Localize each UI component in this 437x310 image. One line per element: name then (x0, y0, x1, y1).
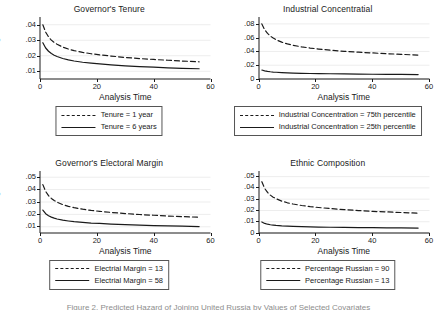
y-tick-mark (37, 56, 40, 57)
y-tick-mark (256, 210, 259, 211)
y-tick-mark (37, 25, 40, 26)
plot-canvas (259, 17, 430, 79)
y-tick-label: .08 (244, 20, 254, 28)
y-tick-mark (37, 226, 40, 227)
y-tick-label: .04 (244, 184, 254, 192)
y-tick-label: .04 (26, 21, 36, 29)
y-tick-mark (256, 51, 259, 52)
solid-line-key-icon (62, 127, 96, 128)
y-tick-label: .03 (26, 37, 36, 45)
y-tick-label: .01 (244, 217, 254, 225)
legend-item: Industrial Concentration = 25th percenti… (240, 121, 416, 133)
y-tick-label: .02 (244, 61, 254, 69)
legend-item: Tenure = 6 years (62, 121, 157, 133)
figure-caption: Figure 2. Predicted Hazard of Joining Un… (0, 303, 437, 310)
y-tick-mark (256, 65, 259, 66)
solid-line-key-icon (55, 280, 89, 281)
panel-governors-electoral-margin: Governor's Electoral Margin Hazard Funct… (0, 154, 219, 308)
y-tick-labels: 0.02.04.06.08 (229, 17, 255, 79)
legend-label: Percentage Russian = 13 (305, 277, 389, 285)
x-axis-label: Analysis Time (259, 92, 430, 102)
y-tick-label: .02 (244, 206, 254, 214)
y-tick-label: .03 (244, 195, 254, 203)
y-tick-mark (256, 38, 259, 39)
legend-label: Electrial Margin = 13 (94, 265, 163, 273)
legend: Electrial Margin = 13 Electrial Margin =… (49, 260, 169, 290)
legend-label: Industrial Concentration = 75th percenti… (279, 111, 416, 119)
y-tick-mark (37, 177, 40, 178)
x-axis-label: Analysis Time (259, 246, 430, 256)
x-tick-label: 40 (368, 83, 376, 91)
x-tick-label: 40 (368, 237, 376, 245)
panel-ethnic-composition: Ethnic Composition 0.01.02.03.04.05 0204… (219, 154, 437, 308)
y-tick-label: .02 (26, 52, 36, 60)
dashed-line-key-icon (55, 268, 89, 269)
plot-canvas (40, 17, 211, 79)
plot-area: 0.02.04.06.08 0204060 (259, 17, 430, 79)
x-tick-label: 40 (150, 83, 158, 91)
dashed-line-key-icon (62, 115, 96, 116)
plot-canvas (259, 171, 430, 233)
plot-canvas (40, 171, 211, 233)
y-tick-mark (256, 187, 259, 188)
y-tick-label: .05 (244, 172, 254, 180)
y-tick-label: .01 (26, 68, 36, 76)
legend: Tenure = 1 year Tenure = 6 years (56, 106, 163, 136)
legend-item: Electrial Margin = 58 (55, 275, 163, 287)
legend: Industrial Concentration = 75th percenti… (234, 106, 422, 136)
y-tick-label: 0 (250, 75, 254, 83)
x-tick-label: 0 (256, 237, 260, 245)
x-tick-label: 20 (311, 83, 319, 91)
y-tick-label: .04 (244, 48, 254, 56)
panel-title: Ethnic Composition (219, 158, 437, 168)
x-tick-label: 60 (425, 83, 433, 91)
x-tick-label: 0 (38, 237, 42, 245)
legend-label: Tenure = 1 year (101, 111, 153, 119)
legend-item: Percentage Russian = 90 (266, 263, 389, 275)
y-tick-label: .01 (26, 223, 36, 231)
y-tick-mark (37, 71, 40, 72)
x-tick-label: 60 (206, 237, 214, 245)
dashed-line-key-icon (240, 115, 274, 116)
x-tick-label: 60 (425, 237, 433, 245)
y-tick-mark (37, 202, 40, 203)
y-tick-label: .06 (244, 34, 254, 42)
panel-title: Governor's Electoral Margin (0, 158, 219, 168)
y-tick-labels: .01.02.03.04.05 (10, 171, 36, 233)
y-tick-mark (37, 40, 40, 41)
panel-title: Industrial Concentratial (219, 4, 437, 14)
y-tick-mark (256, 176, 259, 177)
plot-area: .01.02.03.04 0204060 (40, 17, 211, 79)
x-axis-label: Analysis Time (40, 92, 211, 102)
y-tick-mark (256, 24, 259, 25)
legend-label: Electrial Margin = 58 (94, 277, 163, 285)
legend-label: Industrial Concentration = 25th percenti… (279, 123, 416, 131)
legend-item: Tenure = 1 year (62, 109, 157, 121)
y-tick-label: 0 (250, 229, 254, 237)
plot-area: .01.02.03.04.05 0204060 (40, 171, 211, 233)
x-tick-label: 0 (38, 83, 42, 91)
solid-line-key-icon (266, 280, 300, 281)
legend: Percentage Russian = 90 Percentage Russi… (260, 260, 395, 290)
dashed-line-key-icon (266, 268, 300, 269)
y-tick-label: .03 (26, 198, 36, 206)
legend-item: Industrial Concentration = 75th percenti… (240, 109, 416, 121)
legend-label: Tenure = 6 years (101, 123, 157, 131)
solid-line-key-icon (240, 127, 274, 128)
legend-item: Electrial Margin = 13 (55, 263, 163, 275)
panel-industrial-concentration: Industrial Concentratial 0.02.04.06.08 0… (219, 0, 437, 154)
x-tick-label: 20 (93, 237, 101, 245)
x-tick-label: 0 (256, 83, 260, 91)
x-tick-label: 60 (206, 83, 214, 91)
x-tick-label: 40 (150, 237, 158, 245)
y-tick-mark (256, 221, 259, 222)
y-tick-labels: 0.01.02.03.04.05 (229, 171, 255, 233)
x-tick-label: 20 (93, 83, 101, 91)
x-axis-label: Analysis Time (40, 246, 211, 256)
y-tick-label: .02 (26, 210, 36, 218)
x-tick-label: 20 (311, 237, 319, 245)
legend-label: Percentage Russian = 90 (305, 265, 389, 273)
y-tick-label: .04 (26, 185, 36, 193)
y-tick-labels: .01.02.03.04 (10, 17, 36, 79)
